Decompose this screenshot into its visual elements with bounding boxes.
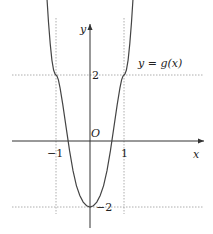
graph-canvas: y x O y = g(x) −112−2 bbox=[0, 0, 213, 234]
x-tick-label: −1 bbox=[47, 147, 63, 160]
dotted-guide-lines bbox=[12, 18, 204, 214]
y-axis-label: y bbox=[79, 23, 87, 36]
x-axis-label: x bbox=[193, 148, 200, 161]
y-tick-label: 2 bbox=[92, 69, 99, 82]
axes bbox=[12, 24, 204, 228]
origin-label: O bbox=[91, 127, 100, 140]
x-tick-label: 1 bbox=[121, 147, 128, 160]
curve-label: y = g(x) bbox=[137, 57, 182, 70]
y-tick-label: −2 bbox=[96, 201, 112, 214]
axis-labels: y x O y = g(x) bbox=[79, 23, 200, 161]
